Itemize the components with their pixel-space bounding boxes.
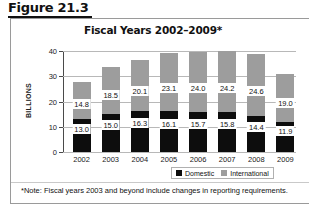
bar-segment-international <box>189 52 207 113</box>
footnote: *Note: Fiscal years 2003 and beyond incl… <box>21 186 288 195</box>
value-label-domestic: 16.1 <box>160 119 179 129</box>
chart-title: Fiscal Years 2002–2009* <box>11 24 295 36</box>
value-label-international: 14.8 <box>72 99 91 109</box>
chart-panel: Fiscal Years 2002–2009* BILLIONS 0102030… <box>10 18 309 204</box>
legend-label: Domestic <box>185 170 214 177</box>
value-label-domestic: 15.0 <box>101 120 120 130</box>
bar-segment-domestic <box>160 111 178 152</box>
value-label-international: 18.5 <box>101 90 120 100</box>
value-label-international: 20.1 <box>131 86 150 96</box>
gridline <box>63 152 296 153</box>
legend-item: Domestic <box>176 170 214 177</box>
bar-segment-domestic <box>131 111 149 152</box>
y-tick-mark <box>59 76 63 77</box>
bar-group <box>247 54 265 152</box>
figure-label: Figure 21.3 <box>8 0 88 15</box>
x-tick-label: 2002 <box>73 155 90 164</box>
bar-group <box>131 60 149 152</box>
y-tick-mark <box>59 152 63 153</box>
value-label-domestic: 15.8 <box>218 119 237 129</box>
y-tick-label: 30 <box>49 72 57 81</box>
y-tick-mark <box>59 102 63 103</box>
value-label-domestic: 16.3 <box>131 118 150 128</box>
value-label-international: 24.6 <box>247 86 266 96</box>
x-tick-label: 2004 <box>131 155 148 164</box>
value-label-domestic: 11.9 <box>276 126 294 136</box>
value-label-domestic: 15.7 <box>189 119 208 129</box>
x-tick-label: 2003 <box>102 155 119 164</box>
x-tick-label: 2007 <box>219 155 236 164</box>
value-label-domestic: 14.4 <box>247 122 266 132</box>
gridline <box>63 51 296 52</box>
bar-group <box>218 51 236 152</box>
value-label-international: 24.2 <box>218 83 237 93</box>
y-tick-label: 20 <box>49 97 57 106</box>
y-tick-mark <box>59 51 63 52</box>
value-label-international: 24.0 <box>189 83 208 93</box>
x-tick-label: 2008 <box>248 155 265 164</box>
y-axis-label: BILLIONS <box>25 71 32 131</box>
y-tick-label: 0 <box>53 148 57 157</box>
bar-group <box>102 67 120 152</box>
bar-group <box>160 53 178 152</box>
x-tick-label: 2006 <box>190 155 207 164</box>
figure-container: Figure 21.3 Fiscal Years 2002–2009* BILL… <box>0 0 309 206</box>
chart-legend: DomesticInternational <box>171 167 274 179</box>
value-label-international: 23.1 <box>160 83 179 93</box>
legend-swatch-international <box>221 170 227 176</box>
y-tick-label: 40 <box>49 47 57 56</box>
bar-group <box>276 74 294 152</box>
bar-group <box>189 52 207 152</box>
bar-group <box>73 82 91 152</box>
x-tick-label: 2005 <box>161 155 178 164</box>
value-label-international: 19.0 <box>276 98 295 108</box>
y-tick-label: 10 <box>49 122 57 131</box>
footnote-divider <box>11 182 309 183</box>
plot-area: 010203040 14.813.018.515.020.116.323.116… <box>63 51 296 152</box>
x-tick-label: 2009 <box>277 155 294 164</box>
value-label-domestic: 13.0 <box>72 124 91 134</box>
legend-swatch-domestic <box>176 170 182 176</box>
bar-segment-international <box>247 54 265 116</box>
legend-item: International <box>221 170 269 177</box>
legend-label: International <box>230 170 269 177</box>
y-tick-mark <box>59 127 63 128</box>
bar-segment-international <box>218 51 236 112</box>
